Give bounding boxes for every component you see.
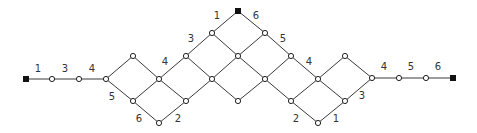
node-a2 xyxy=(76,76,81,81)
node-K xyxy=(235,53,240,58)
node-O xyxy=(288,53,293,58)
edge-G-I xyxy=(186,79,212,101)
edge-label: 4 xyxy=(89,63,95,74)
edge-N-P xyxy=(265,79,291,101)
node-D xyxy=(156,76,161,81)
node-L xyxy=(235,98,240,103)
edge-O-Q xyxy=(291,56,318,79)
edge-label: 6 xyxy=(435,61,441,72)
edge-label: 1 xyxy=(333,113,339,124)
edge-K-N xyxy=(238,56,265,79)
edge-label: 2 xyxy=(293,113,299,124)
edge-label: 6 xyxy=(136,113,142,124)
edge-B-D xyxy=(133,56,159,79)
node-M xyxy=(262,30,267,35)
edge-label: 2 xyxy=(175,113,181,124)
edge-M-O xyxy=(265,33,291,56)
node-R xyxy=(315,120,320,125)
edge-J-M xyxy=(238,11,265,33)
edge-L-N xyxy=(238,79,265,101)
edge-label: 4 xyxy=(381,61,387,72)
node-F xyxy=(183,53,188,58)
node-H xyxy=(209,30,214,35)
edge-label: 4 xyxy=(162,56,168,67)
node-U xyxy=(369,75,374,80)
edge-E-G xyxy=(159,101,186,123)
node-G xyxy=(183,98,188,103)
node-b1 xyxy=(396,75,401,80)
edge-label: 1 xyxy=(35,63,41,74)
edge-label: 4 xyxy=(306,56,312,67)
edge-R-T xyxy=(318,101,345,123)
node-B xyxy=(130,53,135,58)
node-N xyxy=(262,76,267,81)
edge-label: 5 xyxy=(109,91,115,102)
edge-Q-S xyxy=(318,56,345,79)
node-E xyxy=(156,120,161,125)
edge-H-K xyxy=(212,33,238,56)
terminal-node-J xyxy=(235,8,241,14)
edge-labels: 134562431654213456 xyxy=(35,10,441,124)
node-Q xyxy=(315,76,320,81)
edge-label: 3 xyxy=(359,90,365,101)
node-a1 xyxy=(49,76,54,81)
node-A xyxy=(103,76,108,81)
edge-K-M xyxy=(238,33,265,56)
edge-F-I xyxy=(186,56,212,79)
edge-P-Q xyxy=(291,79,318,101)
node-b2 xyxy=(423,75,428,80)
edge-Q-T xyxy=(318,79,345,101)
node-P xyxy=(288,98,293,103)
edge-C-D xyxy=(133,79,159,101)
edge-label: 5 xyxy=(280,33,286,44)
terminal-node-S1 xyxy=(450,75,456,81)
edge-N-O xyxy=(265,56,291,79)
edge-label: 6 xyxy=(253,10,259,21)
edge-label: 3 xyxy=(188,33,194,44)
node-T xyxy=(342,98,347,103)
edge-S-U xyxy=(345,56,372,78)
edge-A-B xyxy=(106,56,133,79)
lattice-diagram: 134562431654213456 xyxy=(0,0,477,133)
terminal-node-S0 xyxy=(23,76,29,82)
edge-I-L xyxy=(212,79,238,101)
node-S xyxy=(342,53,347,58)
node-I xyxy=(209,76,214,81)
edge-label: 1 xyxy=(214,10,220,21)
edge-label: 3 xyxy=(62,63,68,74)
edge-label: 5 xyxy=(408,61,414,72)
edge-D-G xyxy=(159,79,186,101)
edge-I-K xyxy=(212,56,238,79)
node-C xyxy=(130,98,135,103)
